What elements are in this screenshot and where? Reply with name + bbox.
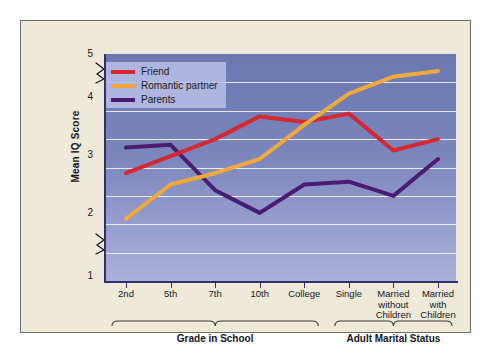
legend-swatch-parents (111, 98, 135, 102)
bracket-grade-in-school (112, 321, 318, 326)
y-tick-label-1: 1 (71, 270, 93, 281)
legend: Friend Romantic partner Parents (106, 62, 226, 108)
figure-container: Mean IQ Score 5 4 3 2 1 (0, 0, 494, 355)
legend-label-friend: Friend (141, 66, 169, 77)
legend-swatch-friend (111, 70, 135, 74)
bracket-adult-marital-status (335, 321, 452, 326)
y-tick-label-3: 3 (71, 149, 93, 160)
y-tick-label-4: 4 (71, 91, 93, 102)
legend-item-romantic-partner: Romantic partner (111, 79, 221, 92)
chart-card: Mean IQ Score 5 4 3 2 1 (20, 20, 471, 333)
legend-label-parents: Parents (141, 94, 175, 105)
legend-item-friend: Friend (111, 65, 221, 78)
group-label-adult-marital-status: Adult Marital Status (293, 333, 493, 344)
group-label-grade-in-school: Grade in School (115, 333, 315, 344)
legend-swatch-romantic-partner (111, 84, 135, 88)
x-axis-label-7: MarriedwithChildren (403, 289, 473, 321)
legend-label-romantic-partner: Romantic partner (141, 80, 218, 91)
y-axis-title: Mean IQ Score (70, 87, 81, 207)
x-axis-line (104, 281, 458, 283)
y-tick-label-5: 5 (71, 48, 93, 59)
legend-item-parents: Parents (111, 93, 221, 106)
y-tick-label-2: 2 (71, 207, 93, 218)
